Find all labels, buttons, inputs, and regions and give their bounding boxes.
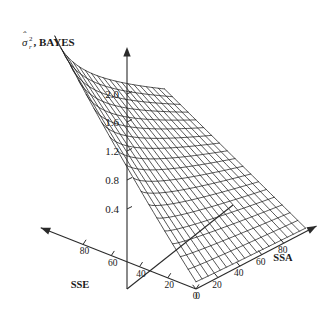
sse-tick-label: 60 xyxy=(108,258,118,268)
sse-tick xyxy=(83,240,86,245)
z-label-subscript: r xyxy=(29,43,32,51)
ssa-tick-label: 20 xyxy=(212,280,222,290)
z-axis-arrow-icon xyxy=(123,47,130,57)
mesh-line-sse xyxy=(172,205,282,244)
mesh-line-ssa xyxy=(152,87,293,234)
ssa-tick xyxy=(215,273,218,277)
ssa-tick-label: 0 xyxy=(193,291,198,301)
z-tick xyxy=(127,178,132,181)
mesh-line-ssa xyxy=(134,85,275,243)
z-tick-label: 2.0 xyxy=(105,88,119,100)
sse-tick-label: 80 xyxy=(80,246,90,256)
z-tick-label: 0.8 xyxy=(105,174,119,186)
z-tick-label: 0.4 xyxy=(105,203,119,215)
surface-mesh xyxy=(55,36,306,282)
mesh-line-ssa xyxy=(128,84,269,247)
sse-axis-label: SSE xyxy=(71,279,90,290)
sse-tick xyxy=(168,273,171,278)
mesh-line-ssa xyxy=(140,86,281,240)
z-axis-label: σˆ2r, BAYES xyxy=(22,29,75,51)
z-tick-label: 1.6 xyxy=(105,116,119,128)
mesh-line-ssa xyxy=(91,73,232,264)
mesh-line-ssa xyxy=(122,82,263,249)
ssa-axis-arrow-icon xyxy=(306,226,316,234)
ssa-tick-label: 40 xyxy=(234,268,244,278)
z-tick-label: 1.2 xyxy=(105,145,119,157)
surface-plot-figure: 2.01.61.20.80.4806040200020406080SSESSAσ… xyxy=(0,0,324,321)
mesh-line-ssa xyxy=(55,36,196,282)
sse-axis-arrow-icon xyxy=(41,228,51,235)
z-label-text: , BAYES xyxy=(34,36,75,48)
mesh-line-ssa xyxy=(79,67,220,270)
mesh-line-ssa xyxy=(104,78,245,258)
ssa-tick xyxy=(236,262,239,266)
sse-tick xyxy=(111,251,114,256)
sse-tick xyxy=(140,262,143,267)
sse-tick-label: 20 xyxy=(165,280,175,290)
sse-tick-label: 40 xyxy=(136,269,146,279)
mesh-line-ssa xyxy=(158,88,299,231)
z-tick xyxy=(127,207,132,210)
mesh-line-sse xyxy=(180,213,290,257)
ssa-axis-label: SSA xyxy=(273,252,293,263)
ssa-tick-label: 60 xyxy=(256,257,266,267)
